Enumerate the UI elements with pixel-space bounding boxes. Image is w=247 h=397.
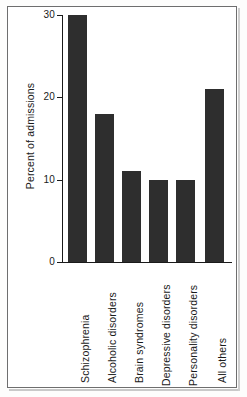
x-axis-category-label: Personality disorders xyxy=(187,285,199,386)
x-axis-category-label: Alcoholic disorders xyxy=(106,292,118,383)
x-axis-category-label: Brain syndromes xyxy=(133,302,145,383)
x-axis-category-label: Depressive disorders xyxy=(160,284,172,386)
x-axis-category-label: Schizophrenia xyxy=(79,315,91,384)
plot-area: 0102030 Percent of admissions Schizophre… xyxy=(0,0,247,397)
x-axis-category-label: All others xyxy=(216,338,228,383)
figure-container: 0102030 Percent of admissions Schizophre… xyxy=(0,0,247,397)
x-axis-category-labels: SchizophreniaAlcoholic disordersBrain sy… xyxy=(0,0,247,397)
